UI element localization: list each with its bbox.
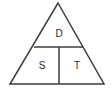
bottom-left-cell-label: S bbox=[39, 60, 46, 71]
triangle-graphic: D S T bbox=[0, 0, 112, 93]
formula-triangle-diagram: D S T bbox=[0, 0, 112, 93]
triangle-outline bbox=[10, 3, 104, 84]
bottom-right-cell-label: T bbox=[74, 60, 80, 71]
top-cell-label: D bbox=[55, 28, 62, 39]
